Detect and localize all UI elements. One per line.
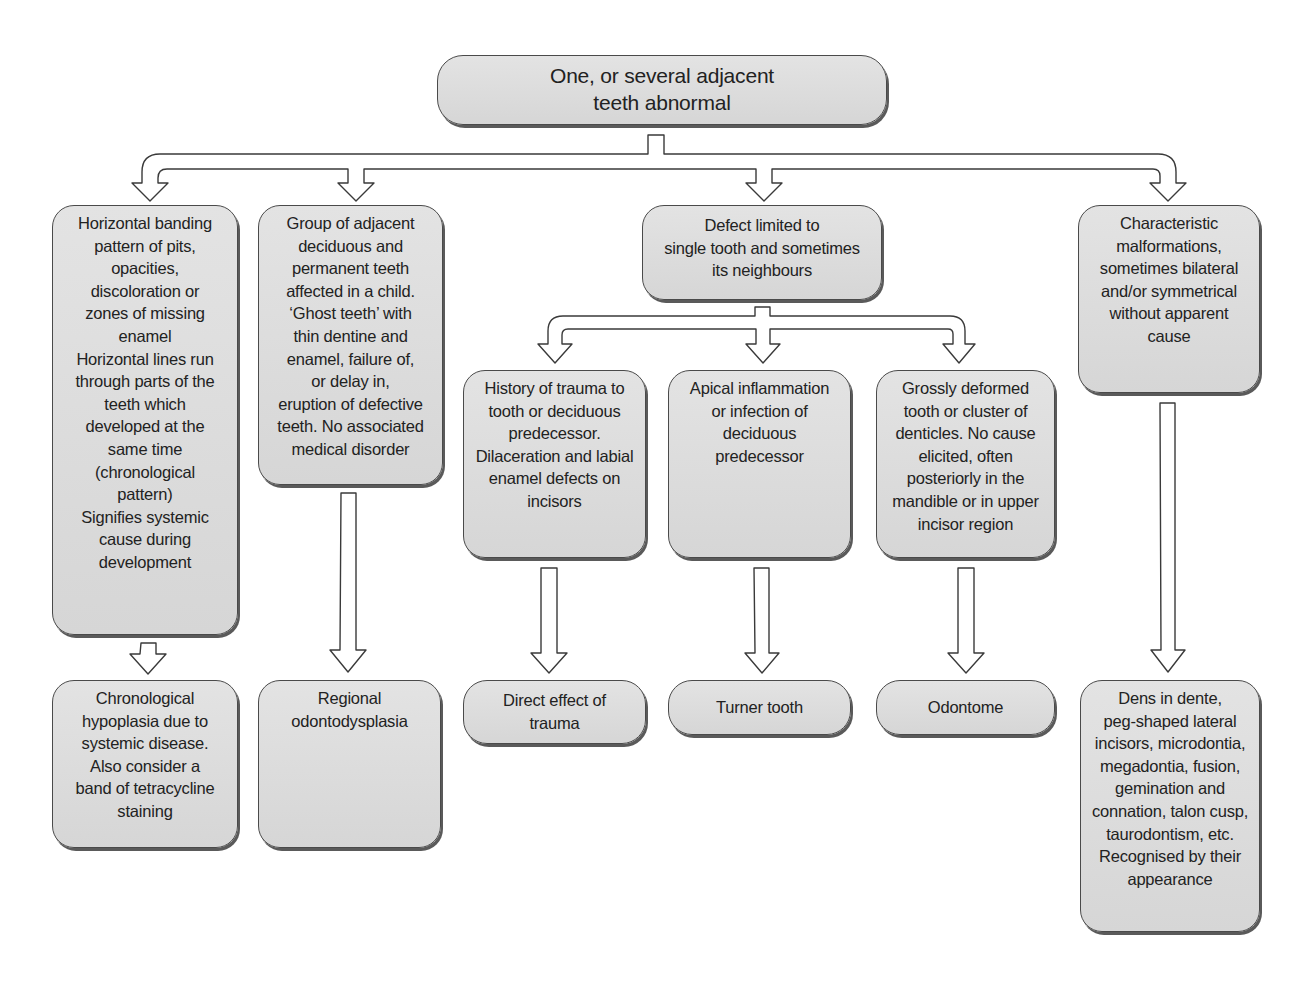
arrow-ghost-outcome	[330, 493, 366, 672]
flowchart-canvas: One, or several adjacent teeth abnormal …	[0, 0, 1313, 985]
outcome-turner-tooth: Turner tooth	[668, 680, 851, 735]
node-root: One, or several adjacent teeth abnormal	[437, 55, 887, 125]
arrow-banding-outcome	[130, 643, 166, 674]
outcome-chronological-hypoplasia: Chronological hypoplasia due to systemic…	[52, 680, 238, 848]
node-single-tooth-defect: Defect limited to single tooth and somet…	[642, 205, 882, 300]
split-arrow-single-tooth	[538, 307, 975, 363]
outcome-dens-in-dente: Dens in dente, peg-shaped lateral inciso…	[1080, 680, 1260, 932]
node-characteristic-malformations: Characteristic malformations, sometimes …	[1078, 205, 1260, 393]
arrow-deformed-outcome	[948, 568, 984, 673]
node-horizontal-banding: Horizontal banding pattern of pits, opac…	[52, 205, 238, 635]
outcome-direct-effect-trauma: Direct effect of trauma	[463, 680, 646, 744]
split-arrow-root	[132, 135, 1186, 201]
arrow-apical-outcome	[745, 568, 779, 673]
node-ghost-teeth: Group of adjacent deciduous and permanen…	[258, 205, 443, 485]
outcome-odontome: Odontome	[876, 680, 1055, 735]
node-trauma-history: History of trauma to tooth or deciduous …	[463, 370, 646, 558]
arrow-trauma-outcome	[531, 568, 567, 673]
arrow-characteristic-outcome	[1151, 403, 1185, 672]
outcome-regional-odontodysplasia: Regional odontodysplasia	[258, 680, 441, 848]
node-apical-inflammation: Apical inflammation or infection of deci…	[668, 370, 851, 558]
node-grossly-deformed: Grossly deformed tooth or cluster of den…	[876, 370, 1055, 558]
